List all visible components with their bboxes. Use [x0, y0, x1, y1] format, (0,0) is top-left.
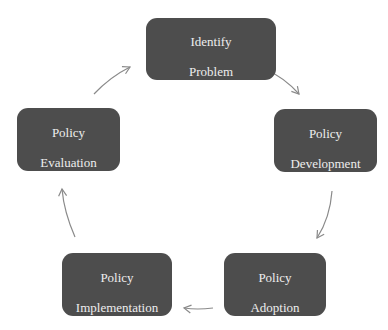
arrow-adoption-to-implementation [184, 308, 213, 309]
node-policy-development: Policy Development [274, 109, 377, 172]
node-identify-problem: Identify Problem [146, 18, 276, 80]
node-label-line1: Policy [52, 125, 85, 140]
node-policy-evaluation: Policy Evaluation [17, 108, 120, 171]
node-policy-implementation: Policy Implementation [62, 253, 172, 316]
node-label-line1: Identify [190, 34, 231, 49]
node-label-line2: Evaluation [40, 155, 96, 170]
node-policy-adoption: Policy Adoption [224, 253, 326, 316]
node-label-line1: Policy [309, 126, 342, 141]
arrow-evaluation-to-identify [94, 67, 130, 94]
arrow-implementation-to-evaluation [62, 189, 75, 237]
node-label-line1: Policy [100, 270, 133, 285]
policy-cycle-diagram: Identify Problem Policy Development Poli… [0, 0, 388, 330]
node-label-line2: Implementation [76, 300, 158, 315]
node-label-line1: Policy [258, 270, 291, 285]
node-label-line2: Development [290, 156, 360, 171]
arrow-development-to-adoption [317, 191, 332, 238]
node-label-line2: Problem [189, 64, 233, 79]
node-label-line2: Adoption [250, 300, 299, 315]
